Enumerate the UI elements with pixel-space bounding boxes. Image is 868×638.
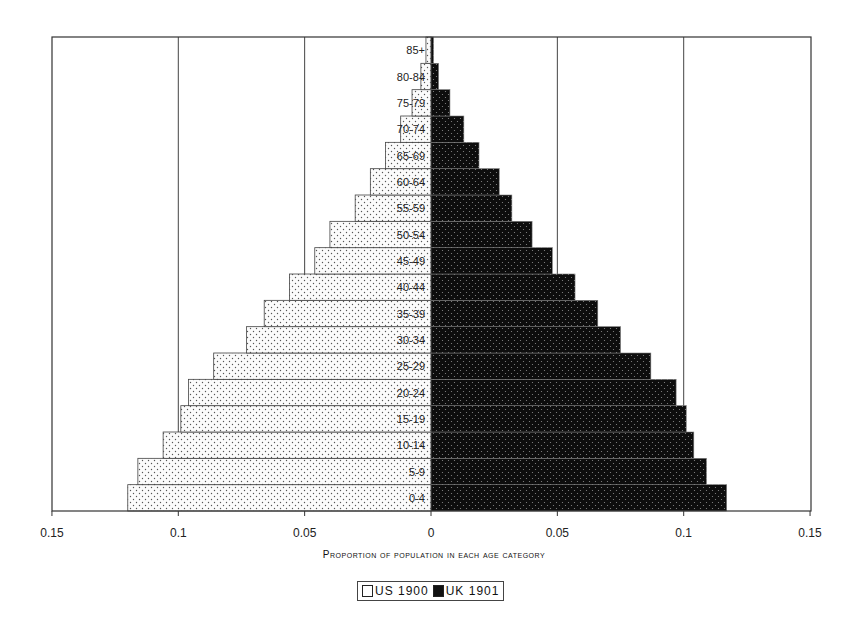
age-category-label: 85+ xyxy=(406,44,425,56)
uk-swatch-icon xyxy=(433,585,444,597)
age-category-label: 75-79 xyxy=(397,97,425,109)
bar-uk-1901 xyxy=(431,274,575,300)
bar-uk-1901 xyxy=(431,221,532,247)
age-category-label: 0-4 xyxy=(409,492,425,504)
bars xyxy=(128,37,727,511)
bar-us-1900 xyxy=(138,458,431,484)
x-axis-ticks: 0.150.10.0500.050.10.15 xyxy=(40,511,822,540)
age-category-label: 70-74 xyxy=(397,123,425,135)
age-category-label: 80-84 xyxy=(397,71,425,83)
age-category-label: 35-39 xyxy=(397,308,425,320)
bar-uk-1901 xyxy=(431,432,694,458)
bar-uk-1901 xyxy=(431,300,598,326)
age-category-label: 50-54 xyxy=(397,229,425,241)
bar-uk-1901 xyxy=(431,353,651,379)
x-tick-label: 0.1 xyxy=(675,526,692,540)
age-category-label: 25-29 xyxy=(397,360,425,372)
bar-uk-1901 xyxy=(431,458,706,484)
bar-uk-1901 xyxy=(431,406,686,432)
legend-uk-label: UK 1901 xyxy=(446,584,500,598)
age-category-label: 40-44 xyxy=(397,281,425,293)
legend-us-label: US 1900 xyxy=(375,584,429,598)
bar-us-1900 xyxy=(181,406,431,432)
bar-us-1900 xyxy=(188,379,431,405)
x-axis-label: Proportion of population in each age cat… xyxy=(0,549,868,560)
x-tick-label: 0.05 xyxy=(293,526,317,540)
age-category-label: 10-14 xyxy=(397,439,425,451)
age-category-label: 60-64 xyxy=(397,176,425,188)
x-tick-label: 0 xyxy=(428,526,435,540)
bar-uk-1901 xyxy=(431,63,439,89)
bar-us-1900 xyxy=(426,37,431,63)
x-tick-label: 0.1 xyxy=(170,526,187,540)
x-tick-label: 0.15 xyxy=(798,526,822,540)
age-category-label: 20-24 xyxy=(397,387,425,399)
age-category-label: 45-49 xyxy=(397,255,425,267)
bar-us-1900 xyxy=(128,485,431,511)
bar-uk-1901 xyxy=(431,327,621,353)
population-pyramid-chart: 0-45-910-1415-1920-2425-2930-3435-3940-4… xyxy=(0,0,868,638)
age-category-label: 15-19 xyxy=(397,413,425,425)
us-swatch-icon xyxy=(362,585,373,597)
bar-uk-1901 xyxy=(431,90,450,116)
age-category-label: 65-69 xyxy=(397,150,425,162)
bar-uk-1901 xyxy=(431,142,479,168)
bar-uk-1901 xyxy=(431,485,727,511)
bar-uk-1901 xyxy=(431,248,552,274)
bar-us-1900 xyxy=(163,432,431,458)
age-category-label: 30-34 xyxy=(397,334,425,346)
legend: US 1900 UK 1901 xyxy=(357,581,504,601)
x-tick-label: 0.05 xyxy=(546,526,570,540)
x-tick-label: 0.15 xyxy=(40,526,64,540)
bar-uk-1901 xyxy=(431,37,434,63)
age-category-label: 5-9 xyxy=(409,466,425,478)
bar-uk-1901 xyxy=(431,195,512,221)
bar-uk-1901 xyxy=(431,169,499,195)
age-category-label: 55-59 xyxy=(397,202,425,214)
bar-uk-1901 xyxy=(431,116,464,142)
bar-uk-1901 xyxy=(431,379,676,405)
